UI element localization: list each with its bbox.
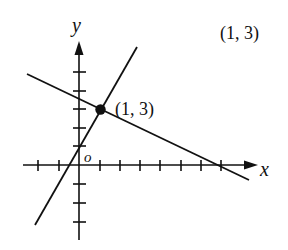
x-axis [23, 160, 250, 171]
steep-line [35, 47, 137, 225]
shallow-line [27, 74, 249, 180]
caption: (1, 3) [220, 23, 259, 44]
x-axis-label: x [259, 158, 269, 180]
y-axis [73, 48, 86, 240]
coordinate-diagram: y x O (1, 3) (1, 3) [0, 0, 288, 250]
x-axis-arrow-icon [244, 161, 258, 170]
intersection-label: (1, 3) [115, 99, 154, 120]
y-axis-arrow-icon [75, 41, 84, 55]
intersection-point [95, 104, 105, 114]
y-axis-label: y [70, 14, 81, 37]
origin-label: O [84, 149, 92, 165]
